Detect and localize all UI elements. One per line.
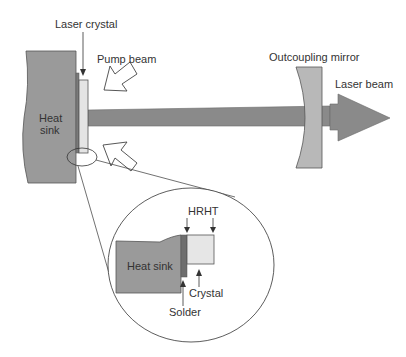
laser-crystal xyxy=(79,80,88,153)
inset-solder xyxy=(181,235,187,277)
label-heat-sink-line2: sink xyxy=(40,124,60,136)
solder-layer xyxy=(76,73,79,153)
laser-beam-shaft xyxy=(88,106,330,126)
label-outcoupling-mirror: Outcoupling mirror xyxy=(269,51,360,63)
inset-label-hrht: HRHT xyxy=(188,205,219,217)
inset-label-heat-sink: Heat sink xyxy=(127,260,173,272)
inset-crystal xyxy=(187,235,214,264)
label-pump-beam: Pump beam xyxy=(97,53,156,65)
inset-label-crystal: Crystal xyxy=(189,287,223,299)
pump-beam-arrow-upper xyxy=(104,62,137,91)
laser-beam-arrowhead xyxy=(330,94,390,141)
label-laser-crystal: Laser crystal xyxy=(55,18,117,30)
label-laser-beam: Laser beam xyxy=(335,78,393,90)
label-heat-sink-line1: Heat xyxy=(39,112,62,124)
laser-diagram: Laser crystal Pump beam Outcoupling mirr… xyxy=(0,0,406,357)
inset-label-solder: Solder xyxy=(169,306,201,318)
